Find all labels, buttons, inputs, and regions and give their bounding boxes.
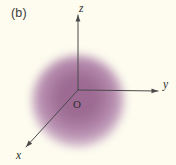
y-axis [78, 90, 158, 91]
y-axis-arrowhead [151, 89, 158, 94]
y-axis-label: y [163, 79, 168, 91]
panel-label: (b) [11, 6, 27, 20]
z-axis-arrowhead [76, 15, 81, 22]
x-axis-label: x [16, 150, 21, 162]
x-axis [26, 90, 78, 147]
orbital-figure: (b) z y x O [0, 0, 176, 165]
z-axis-label: z [79, 3, 83, 15]
coordinate-axes [0, 0, 176, 165]
origin-label: O [73, 99, 81, 110]
